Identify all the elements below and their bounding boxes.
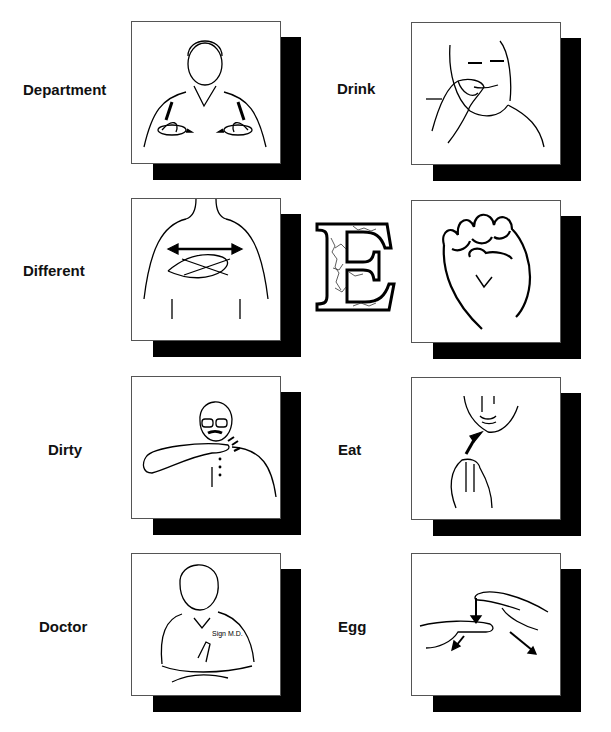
sign-card-department [131,21,281,164]
illustration-e-handshape [411,200,561,343]
illustration-eat [411,377,561,520]
entry-label-different: Different [23,262,85,279]
illustration-department [131,21,281,164]
entry-label-department: Department [23,81,106,98]
decorated-letter-e-icon [313,218,397,316]
illustration-egg [411,553,561,696]
sign-card-e-handshape [411,200,561,343]
section-letter-e [313,218,397,316]
entry-label-egg: Egg [338,618,366,635]
sign-card-eat [411,377,561,520]
svg-text:Sign M.D.: Sign M.D. [212,630,243,638]
sign-card-drink [411,22,561,165]
entry-label-doctor: Doctor [39,618,87,635]
entry-label-drink: Drink [337,80,375,97]
sign-card-egg [411,553,561,696]
sign-card-doctor: Sign M.D. [131,553,281,696]
illustration-dirty [131,376,281,519]
sign-card-different [131,198,281,341]
illustration-different [131,198,281,341]
illustration-drink [411,22,561,165]
entry-label-eat: Eat [338,441,361,458]
entry-label-dirty: Dirty [48,441,82,458]
sign-card-dirty [131,376,281,519]
illustration-doctor: Sign M.D. [131,553,281,696]
